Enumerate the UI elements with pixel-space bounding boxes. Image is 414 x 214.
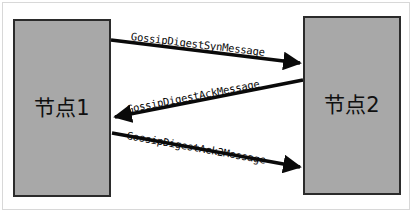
node-right-label: 节点2 xyxy=(324,95,379,116)
diagram-canvas: 节点1 节点2 GossipDigestSynMessage GossipDig… xyxy=(0,0,414,214)
node-box-right[interactable]: 节点2 xyxy=(303,16,401,195)
node-left-label: 节点1 xyxy=(34,98,89,119)
node-box-left[interactable]: 节点1 xyxy=(13,19,111,197)
